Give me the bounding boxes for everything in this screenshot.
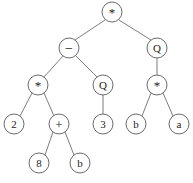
tree-edge bbox=[65, 132, 74, 155]
tree-node[interactable]: 8 bbox=[29, 153, 49, 173]
expression-tree-canvas: *−Q*Q*2+3ba8b bbox=[0, 0, 193, 183]
tree-node[interactable]: a bbox=[169, 114, 189, 134]
node-label: a bbox=[177, 118, 182, 130]
tree-node[interactable]: + bbox=[49, 114, 69, 134]
tree-edge bbox=[163, 93, 173, 116]
node-label: b bbox=[133, 118, 139, 130]
node-label: 2 bbox=[11, 118, 17, 130]
tree-node[interactable]: − bbox=[59, 38, 79, 58]
node-label: 3 bbox=[100, 118, 106, 130]
tree-node[interactable]: Q bbox=[93, 75, 113, 95]
tree-edge bbox=[20, 93, 32, 116]
tree-edge bbox=[44, 56, 63, 77]
node-label: b bbox=[77, 157, 83, 169]
node-label: + bbox=[55, 117, 62, 132]
node-label: * bbox=[154, 78, 161, 93]
expression-tree-figure: *−Q*Q*2+3ba8b bbox=[0, 0, 193, 183]
node-label: Q bbox=[99, 79, 107, 91]
node-label: Q bbox=[153, 42, 161, 54]
tree-node[interactable]: * bbox=[28, 75, 48, 95]
node-label: 8 bbox=[36, 157, 42, 169]
tree-edge bbox=[142, 93, 151, 116]
tree-node[interactable]: * bbox=[102, 2, 122, 22]
tree-edge bbox=[45, 132, 53, 155]
tree-node[interactable]: 2 bbox=[4, 114, 24, 134]
tree-node[interactable]: b bbox=[126, 114, 146, 134]
node-label: * bbox=[35, 78, 42, 93]
tree-edge bbox=[44, 93, 54, 116]
tree-edge bbox=[119, 20, 151, 40]
node-label: * bbox=[109, 5, 116, 20]
tree-node[interactable]: * bbox=[147, 75, 167, 95]
tree-node[interactable]: Q bbox=[147, 38, 167, 58]
node-label: − bbox=[65, 41, 73, 56]
tree-edge bbox=[76, 56, 97, 77]
node-layer: *−Q*Q*2+3ba8b bbox=[4, 2, 189, 173]
tree-node[interactable]: b bbox=[70, 153, 90, 173]
tree-edge bbox=[75, 20, 105, 40]
tree-node[interactable]: 3 bbox=[93, 114, 113, 134]
